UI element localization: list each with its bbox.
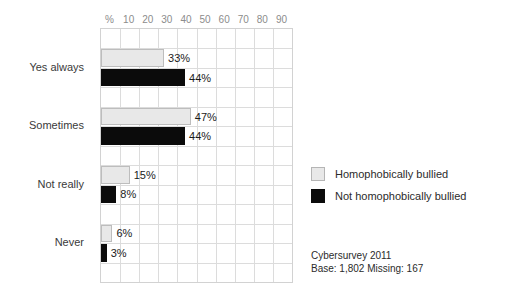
horizontal-gridline — [101, 224, 292, 225]
horizontal-gridline — [101, 204, 292, 205]
legend-item: Homophobically bullied — [311, 163, 501, 185]
x-axis-tick-20: 20 — [138, 13, 157, 26]
vertical-gridline — [273, 29, 274, 282]
source-note: Cybersurvey 2011 Base: 1,802 Missing: 16… — [311, 249, 501, 275]
bar-value-label: 33% — [168, 52, 190, 64]
category-label-sometimes: Sometimes — [29, 119, 84, 131]
x-axis-tick-90: 90 — [272, 13, 291, 26]
horizontal-gridline — [101, 263, 292, 264]
bar-value-label: 15% — [134, 169, 156, 181]
bar-value-label: 44% — [189, 72, 211, 84]
legend: Homophobically bulliedNot homophobically… — [311, 163, 501, 207]
bar-never-series-0 — [101, 225, 112, 242]
bar-yes-always-series-1 — [101, 69, 185, 86]
bar-not-really-series-1 — [101, 186, 116, 203]
bar-value-label: 8% — [120, 188, 136, 200]
vertical-gridline — [254, 29, 255, 282]
x-axis-tick-50: 50 — [196, 13, 215, 26]
horizontal-gridline — [101, 243, 292, 244]
category-axis: Yes alwaysSometimesNot reallyNever — [0, 28, 92, 283]
legend-item: Not homophobically bullied — [311, 185, 501, 207]
vertical-gridline — [177, 29, 178, 282]
source-note-line-2: Base: 1,802 Missing: 167 — [311, 262, 501, 275]
x-axis-tick-40: 40 — [176, 13, 195, 26]
bar-value-label: 47% — [195, 111, 217, 123]
horizontal-gridline — [101, 146, 292, 147]
bar-value-label: 44% — [189, 130, 211, 142]
horizontal-gridline — [101, 185, 292, 186]
bar-sometimes-series-1 — [101, 127, 185, 144]
plot-area: 33%44%47%44%15%8%6%3% — [100, 28, 293, 283]
x-axis-tick-80: 80 — [253, 13, 272, 26]
x-axis-tick-60: 60 — [215, 13, 234, 26]
legend-label: Not homophobically bullied — [335, 190, 466, 203]
vertical-gridline — [139, 29, 140, 282]
bar-value-label: 3% — [111, 247, 127, 259]
vertical-gridline — [120, 29, 121, 282]
x-axis-tick-30: 30 — [157, 13, 176, 26]
legend-swatch-dark — [311, 189, 325, 203]
x-axis-tick-10: 10 — [119, 13, 138, 26]
bar-value-label: 6% — [116, 227, 132, 239]
x-axis-percent-label: % — [100, 13, 119, 26]
horizontal-gridline — [101, 87, 292, 88]
category-label-yes-always: Yes always — [29, 61, 84, 73]
legend-swatch-light — [311, 167, 325, 181]
vertical-gridline — [197, 29, 198, 282]
vertical-gridline — [216, 29, 217, 282]
source-note-line-1: Cybersurvey 2011 — [311, 249, 501, 262]
legend-label: Homophobically bullied — [335, 168, 448, 181]
bar-never-series-1 — [101, 244, 107, 261]
bar-not-really-series-0 — [101, 166, 130, 183]
x-axis-tick-labels: %102030405060708090 — [100, 13, 293, 27]
bar-yes-always-series-0 — [101, 49, 164, 66]
bar-sometimes-series-0 — [101, 108, 191, 125]
vertical-gridline — [158, 29, 159, 282]
category-label-not-really: Not really — [38, 178, 84, 190]
category-label-never: Never — [55, 236, 84, 248]
horizontal-gridline — [101, 165, 292, 166]
vertical-gridline — [235, 29, 236, 282]
x-axis-tick-70: 70 — [234, 13, 253, 26]
